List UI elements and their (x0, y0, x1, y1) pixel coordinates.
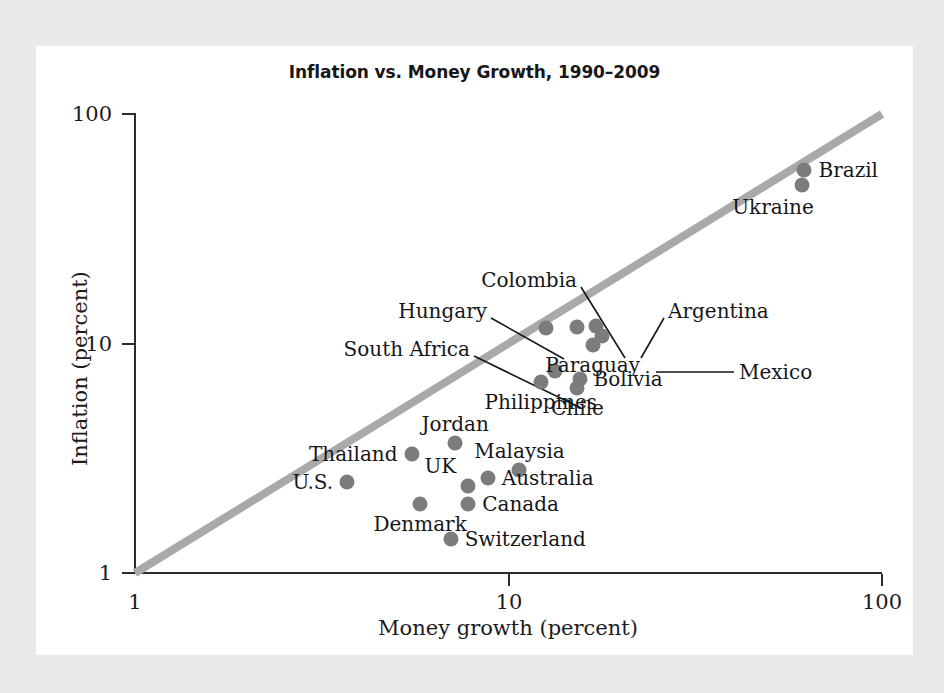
data-point-label-australia: Australia (502, 466, 594, 490)
data-point-philippines[interactable] (533, 374, 548, 389)
y-tick-10 (122, 343, 134, 345)
data-point-australia[interactable] (480, 470, 495, 485)
x-tick-label-1: 1 (128, 590, 141, 614)
data-point-ukraine[interactable] (794, 178, 809, 193)
leader-lines (36, 46, 913, 655)
data-point-label-philippines: Philippines (484, 390, 597, 414)
leader-line-argentina (641, 318, 664, 358)
data-point-canada[interactable] (461, 496, 476, 511)
data-point-brazil[interactable] (797, 163, 812, 178)
scatter-plot: Inflation (percent) Money growth (percen… (36, 46, 913, 655)
data-point-label-canada: Canada (482, 492, 559, 516)
data-point-label-u-s: U.S. (292, 470, 333, 494)
data-point-label-south-africa: South Africa (344, 337, 470, 361)
y-tick-label-100: 100 (46, 102, 112, 126)
y-tick-100 (122, 113, 134, 115)
x-tick-100 (881, 574, 883, 586)
x-tick-label-10: 10 (496, 590, 523, 614)
data-point-label-denmark: Denmark (373, 512, 466, 536)
data-point-label-jordan: Jordan (422, 412, 489, 436)
y-axis-title: Inflation (percent) (68, 271, 92, 466)
data-point-label-mexico: Mexico (739, 360, 812, 384)
data-point-label-uk: UK (424, 454, 456, 478)
data-point-label-brazil: Brazil (818, 158, 878, 182)
data-point-label-malaysia: Malaysia (474, 439, 565, 463)
data-point-label-switzerland: Switzerland (465, 527, 586, 551)
reference-line-45-degree (36, 46, 913, 655)
data-point-label-argentina: Argentina (668, 299, 769, 323)
data-point-thailand[interactable] (404, 447, 419, 462)
x-axis-title: Money growth (percent) (134, 616, 882, 640)
x-tick-label-100: 100 (862, 590, 902, 614)
x-tick-10 (508, 574, 510, 586)
data-point-hungary[interactable] (538, 320, 553, 335)
data-point-paraguay[interactable] (585, 337, 600, 352)
y-tick-label-1: 1 (46, 561, 112, 585)
data-point-label-thailand: Thailand (309, 442, 398, 466)
y-tick-label-10: 10 (46, 332, 112, 356)
y-axis-line (134, 113, 136, 574)
data-point-label-ukraine: Ukraine (732, 195, 814, 219)
data-point-jordan[interactable] (448, 435, 463, 450)
data-point-u-s[interactable] (340, 474, 355, 489)
figure-card: Inflation vs. Money Growth, 1990–2009 In… (36, 46, 913, 655)
data-point-label-colombia: Colombia (481, 268, 577, 292)
data-point-label-bolivia: Bolivia (594, 367, 663, 391)
data-point-uk[interactable] (461, 478, 476, 493)
data-point-denmark[interactable] (413, 496, 428, 511)
y-tick-1 (122, 572, 134, 574)
data-point-label-hungary: Hungary (398, 299, 487, 323)
data-point-colombia[interactable] (570, 320, 585, 335)
